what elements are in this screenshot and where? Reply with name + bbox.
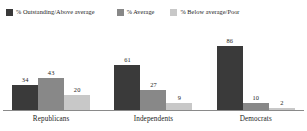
bar	[243, 103, 269, 110]
legend-item-below-average: % Below average/Poor	[170, 8, 239, 16]
bar-group: 61279	[114, 24, 192, 110]
bar-groups: 3443206127986102	[0, 24, 307, 110]
bar	[166, 103, 192, 110]
legend-label-below-average: % Below average/Poor	[180, 8, 239, 16]
legend-swatch-average	[117, 9, 124, 16]
bar-slot: 43	[38, 24, 64, 110]
bar-slot: 20	[64, 24, 90, 110]
bar-group: 86102	[217, 24, 295, 110]
bar-value-label: 20	[74, 86, 81, 94]
bar	[140, 90, 166, 110]
axis-baseline	[3, 110, 304, 111]
legend-label-outstanding: % Outstanding/Above average	[16, 8, 95, 16]
bar-group: 344320	[12, 24, 90, 110]
legend-item-outstanding: % Outstanding/Above average	[6, 8, 95, 16]
bar-value-label: 43	[48, 69, 55, 77]
bar-value-label: 27	[150, 81, 157, 89]
bar-slot: 86	[217, 24, 243, 110]
bar	[114, 65, 140, 110]
bar-value-label: 34	[22, 76, 29, 84]
bar-slot: 27	[140, 24, 166, 110]
bar-slot: 61	[114, 24, 140, 110]
category-labels: RepublicansIndependentsDemocrats	[0, 114, 307, 128]
bar	[217, 46, 243, 110]
bar	[12, 85, 38, 110]
plot-area: 3443206127986102 RepublicansIndependents…	[0, 24, 307, 131]
bar	[38, 78, 64, 110]
legend-swatch-below-average	[170, 9, 177, 16]
legend-label-average: % Average	[127, 8, 155, 16]
bar-slot: 9	[166, 24, 192, 110]
legend-swatch-outstanding	[6, 9, 13, 16]
bar-value-label: 86	[227, 37, 234, 45]
category-label: Republicans	[8, 114, 94, 128]
bar	[64, 95, 90, 110]
bar-value-label: 10	[253, 94, 260, 102]
bar-slot: 2	[269, 24, 295, 110]
bar-slot: 10	[243, 24, 269, 110]
category-label: Independents	[110, 114, 196, 128]
chart-legend: % Outstanding/Above average % Average % …	[0, 5, 307, 19]
category-label: Democrats	[213, 114, 299, 128]
bar-value-label: 61	[124, 56, 131, 64]
bar-value-label: 9	[178, 94, 181, 102]
bar-chart: % Outstanding/Above average % Average % …	[0, 0, 307, 131]
legend-item-average: % Average	[117, 8, 155, 16]
bar-value-label: 2	[280, 99, 283, 107]
bar-slot: 34	[12, 24, 38, 110]
